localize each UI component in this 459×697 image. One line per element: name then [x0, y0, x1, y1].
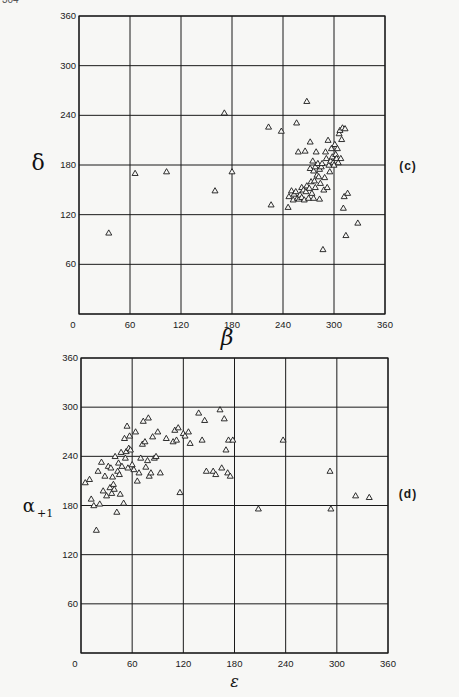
y-axis-label: δ	[31, 150, 44, 175]
y-tick-label: 300	[62, 401, 78, 412]
panel-label: (c)	[399, 159, 417, 173]
triangle-marker	[164, 169, 170, 174]
triangle-marker	[124, 423, 130, 428]
y-tick-label: 240	[62, 450, 78, 461]
triangle-marker	[177, 489, 183, 494]
data-points	[82, 407, 372, 533]
triangle-marker	[140, 418, 146, 423]
panel-label: (d)	[399, 487, 417, 501]
triangle-marker	[266, 124, 272, 129]
x-tick-label: 0	[72, 658, 77, 669]
y-tick-label: 60	[67, 598, 78, 609]
triangle-marker	[323, 155, 329, 160]
triangle-marker	[320, 246, 326, 251]
triangle-marker	[323, 149, 329, 154]
triangle-marker	[355, 220, 361, 225]
triangle-marker	[203, 468, 209, 473]
triangle-marker	[212, 188, 218, 193]
triangle-marker	[221, 110, 227, 115]
triangle-marker	[122, 455, 128, 460]
x-tick-label: 240	[278, 658, 294, 669]
triangle-marker	[327, 169, 333, 174]
triangle-marker	[97, 501, 103, 506]
figure: 06012018024030036060120180240300360βδ(c)…	[0, 0, 459, 697]
triangle-marker	[129, 462, 135, 467]
triangle-marker	[196, 410, 202, 415]
x-tick-label: 360	[377, 319, 393, 330]
triangle-marker	[88, 496, 94, 501]
triangle-marker	[155, 429, 161, 434]
triangle-marker	[100, 488, 106, 493]
triangle-marker	[325, 137, 331, 142]
triangle-marker	[98, 459, 104, 464]
triangle-marker	[311, 195, 317, 200]
triangle-marker	[110, 474, 116, 479]
triangle-marker	[202, 417, 208, 422]
triangle-marker	[174, 437, 180, 442]
triangle-marker	[136, 470, 142, 475]
x-tick-label: 180	[227, 658, 243, 669]
x-tick-label: 60	[125, 319, 136, 330]
x-tick-label: 120	[173, 319, 189, 330]
triangle-marker	[150, 434, 156, 439]
x-tick-label: 360	[380, 658, 396, 669]
y-tick-label: 180	[62, 500, 78, 511]
triangle-marker	[309, 190, 315, 195]
triangle-marker	[134, 478, 140, 483]
triangle-marker	[366, 494, 372, 499]
triangle-marker	[353, 493, 359, 498]
triangle-marker	[221, 416, 227, 421]
triangle-marker	[199, 437, 205, 442]
triangle-marker	[268, 202, 274, 207]
triangle-marker	[138, 455, 144, 460]
triangle-marker	[157, 470, 163, 475]
x-tick-label: 0	[70, 319, 75, 330]
triangle-marker	[121, 500, 127, 505]
x-tick-label: 300	[329, 658, 345, 669]
triangle-marker	[95, 468, 101, 473]
y-tick-label: 240	[60, 109, 76, 120]
triangle-marker	[345, 190, 351, 195]
y-tick-label: 180	[60, 159, 76, 170]
triangle-marker	[223, 447, 229, 452]
triangle-marker	[307, 139, 313, 144]
triangle-marker	[163, 435, 169, 440]
triangle-marker	[294, 120, 300, 125]
triangle-marker	[106, 230, 112, 235]
triangle-marker	[339, 136, 345, 141]
triangle-marker	[185, 429, 191, 434]
triangle-marker	[93, 527, 99, 532]
data-points	[106, 98, 361, 251]
scatter-plot-d: 06012018024030036060120180240300360εα+1(…	[23, 352, 417, 691]
triangle-marker	[317, 196, 323, 201]
triangle-marker	[143, 464, 149, 469]
triangle-marker	[145, 457, 151, 462]
triangle-marker	[132, 170, 138, 175]
triangle-marker	[110, 481, 116, 486]
triangle-marker	[343, 232, 349, 237]
triangle-marker	[302, 148, 308, 153]
triangle-marker	[114, 509, 120, 514]
triangle-marker	[319, 160, 325, 165]
triangle-marker	[116, 460, 122, 465]
triangle-marker	[295, 149, 301, 154]
y-axis-label: α+1	[23, 495, 53, 520]
triangle-marker	[219, 465, 225, 470]
triangle-marker	[229, 169, 235, 174]
triangle-marker	[133, 429, 139, 434]
triangle-marker	[310, 158, 316, 163]
x-axis-label: ε	[230, 672, 239, 691]
triangle-marker	[322, 174, 328, 179]
triangle-marker	[317, 180, 323, 185]
triangle-marker	[87, 476, 93, 481]
triangle-marker	[117, 491, 123, 496]
triangle-marker	[340, 205, 346, 210]
y-tick-label: 300	[60, 60, 76, 71]
y-tick-label: 120	[62, 549, 78, 560]
triangle-marker	[255, 506, 261, 511]
triangle-marker	[285, 204, 291, 209]
triangle-marker	[313, 149, 319, 154]
triangle-marker	[324, 184, 330, 189]
x-tick-label: 60	[127, 658, 138, 669]
scatter-plot-c: 06012018024030036060120180240300360βδ(c)	[31, 10, 416, 350]
